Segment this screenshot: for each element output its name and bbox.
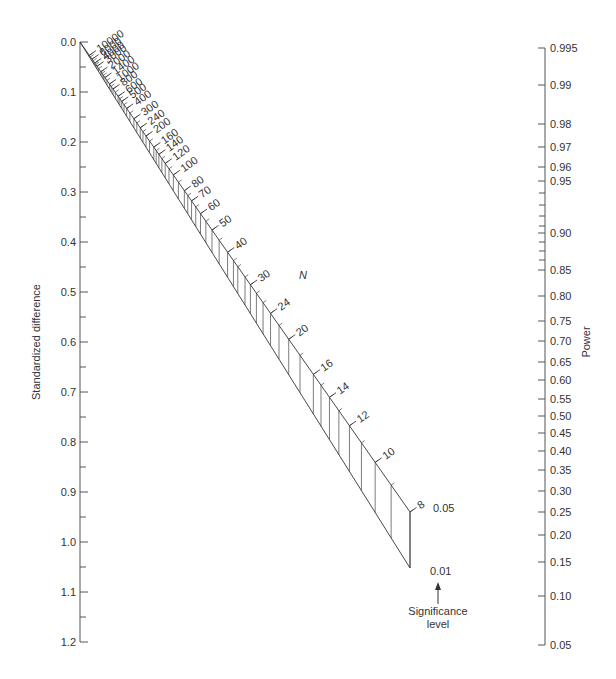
sig-level-005: 0.05	[433, 502, 454, 514]
power-tick-label: 0.99	[550, 79, 571, 91]
right-axis-title: Power	[580, 326, 592, 358]
n-scale-title: N	[299, 269, 307, 281]
left-axis-tick-label: 0.6	[61, 336, 76, 348]
power-tick-label: 0.10	[550, 590, 571, 602]
power-tick-label: 0.85	[550, 264, 571, 276]
power-tick-label: 0.90	[550, 227, 571, 239]
left-axis-tick-label: 0.5	[61, 286, 76, 298]
power-tick-label: 0.75	[550, 315, 571, 327]
left-axis-title: Standardized difference	[30, 284, 42, 400]
n-scale-diagonal: 1000060004000300020001400100080060050040…	[80, 27, 427, 568]
n-scale-tick-label: 8	[415, 498, 427, 511]
power-tick-label: 0.97	[550, 141, 571, 153]
left-axis-tick-label: 1.2	[61, 636, 76, 648]
power-tick-label: 0.95	[550, 175, 571, 187]
n-scale-tick-label: 60	[205, 196, 222, 213]
power-tick-label: 0.40	[550, 445, 571, 457]
power-tick-label: 0.30	[550, 485, 571, 497]
power-tick-label: 0.20	[550, 529, 571, 541]
n-scale-tick-label: 16	[318, 357, 335, 374]
sig-level-001: 0.01	[430, 565, 451, 577]
axis-labels: Standardized difference Power N 0.05 0.0…	[30, 269, 592, 630]
n-scale-tick-label: 20	[293, 322, 310, 339]
power-tick-label: 0.15	[550, 556, 571, 568]
standardized-difference-axis: 0.00.10.20.30.40.50.60.70.80.91.01.11.2	[61, 36, 88, 648]
power-tick-label: 0.25	[550, 506, 571, 518]
significance-label-line1: Significance	[408, 605, 467, 617]
left-axis-tick-label: 1.0	[61, 536, 76, 548]
power-tick-label: 0.96	[550, 161, 571, 173]
n-scale-tick-label: 10	[380, 445, 397, 462]
power-tick-label: 0.55	[550, 393, 571, 405]
power-tick-label: 0.45	[550, 427, 571, 439]
power-nomogram: 0.00.10.20.30.40.50.60.70.80.91.01.11.2 …	[0, 0, 616, 679]
power-tick-label: 0.70	[550, 335, 571, 347]
left-axis-tick-label: 0.1	[61, 86, 76, 98]
left-axis-tick-label: 0.9	[61, 486, 76, 498]
left-axis-tick-label: 0.7	[61, 386, 76, 398]
n-scale-tick-label: 30	[255, 267, 272, 284]
left-axis-tick-label: 0.2	[61, 136, 76, 148]
left-axis-tick-label: 1.1	[61, 586, 76, 598]
power-tick-label: 0.80	[550, 290, 571, 302]
n-scale-tick-label: 24	[275, 296, 292, 313]
left-axis-tick-label: 0.0	[61, 36, 76, 48]
power-tick-label: 0.995	[550, 42, 578, 54]
left-axis-tick-label: 0.3	[61, 186, 76, 198]
power-tick-label: 0.50	[550, 410, 571, 422]
n-scale-tick-label: 50	[217, 212, 234, 229]
n-scale-tick-label: 14	[334, 380, 351, 397]
power-tick-label: 0.60	[550, 374, 571, 386]
power-tick-label: 0.65	[550, 356, 571, 368]
n-scale-tick-label: 40	[232, 235, 249, 252]
arrow-up-icon	[435, 582, 441, 604]
left-axis-tick-label: 0.4	[61, 236, 76, 248]
significance-label-line2: level	[427, 618, 450, 630]
power-tick-label: 0.98	[550, 118, 571, 130]
left-axis-tick-label: 0.8	[61, 436, 76, 448]
n-scale-tick-label: 12	[354, 408, 371, 425]
power-tick-label: 0.05	[550, 639, 571, 651]
power-axis: 0.9950.990.980.970.960.950.900.850.800.7…	[538, 42, 578, 651]
power-tick-label: 0.35	[550, 464, 571, 476]
